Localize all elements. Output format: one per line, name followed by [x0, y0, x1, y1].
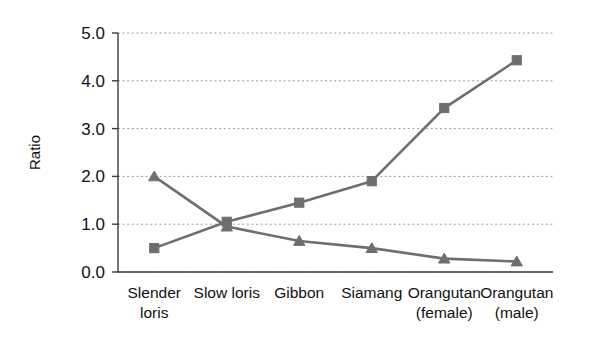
data-point-marker-square — [295, 198, 304, 207]
line-chart: 0.01.02.03.04.05.0 SlenderlorisSlow lori… — [0, 0, 609, 342]
data-point-marker-square — [512, 56, 521, 65]
data-point-marker-square — [150, 244, 159, 253]
chart-figure: 0.01.02.03.04.05.0 SlenderlorisSlow lori… — [0, 0, 609, 342]
series-line-1 — [154, 176, 517, 261]
y-axis-group — [112, 33, 118, 272]
y-axis-tick-label: 2.0 — [81, 167, 105, 186]
series-markers-group — [149, 56, 523, 266]
x-axis-tick-labels: SlenderlorisSlow lorisGibbonSiamangOrang… — [128, 284, 554, 321]
y-axis-tick-label: 0.0 — [81, 263, 105, 282]
x-axis-tick-label: Orangutan(male) — [480, 284, 553, 321]
x-axis-tick-label: Slow loris — [194, 284, 261, 301]
y-axis-tick-label: 1.0 — [81, 215, 105, 234]
y-axis-tick-label: 5.0 — [81, 24, 105, 43]
y-axis-title-group: Ratio — [26, 135, 43, 170]
x-axis-tick-label: Orangutan(female) — [408, 284, 481, 321]
data-point-marker-square — [367, 177, 376, 186]
y-axis-tick-labels: 0.01.02.03.04.05.0 — [81, 24, 105, 282]
gridlines-group — [118, 33, 553, 272]
series-line-0 — [154, 60, 517, 248]
y-axis-tick-label: 4.0 — [81, 72, 105, 91]
x-axis-tick-label: Gibbon — [274, 284, 324, 301]
x-axis-tick-label: Siamang — [341, 284, 402, 301]
series-lines-group — [154, 60, 517, 261]
y-axis-tick-label: 3.0 — [81, 120, 105, 139]
x-axis-tick-label: Slenderloris — [128, 284, 181, 321]
y-axis-title: Ratio — [26, 135, 43, 170]
data-point-marker-square — [440, 103, 449, 112]
